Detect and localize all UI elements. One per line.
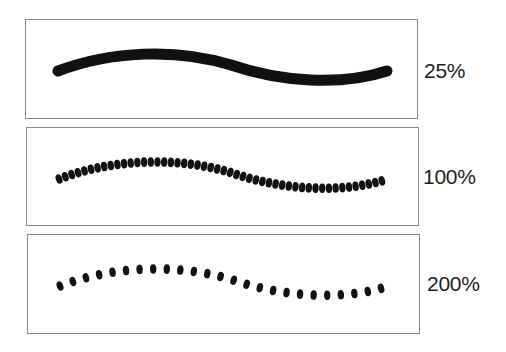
brush-dab [332,183,339,193]
brush-stroke-100-percent [27,128,420,227]
panel-25-percent [25,19,418,119]
brush-dab [278,180,286,190]
brush-dab [114,159,122,169]
brush-dab [181,158,188,168]
brush-dab [352,181,360,191]
brush-dab [265,178,273,189]
brush-dab [345,182,352,192]
brush-dab [292,182,299,192]
brush-dab [100,161,108,172]
brush-dab [203,268,211,279]
brush-dab [324,290,331,300]
brush-dab [377,175,386,186]
brush-dab [242,279,251,290]
brush-dab [109,267,117,277]
brush-stroke-25-percent [26,20,419,120]
brush-dab [337,290,344,300]
brush-dab [216,271,225,282]
brush-dab [82,272,91,283]
brush-dab [190,266,198,276]
brush-dab [213,164,221,175]
panel-200-percent [27,234,420,334]
brush-dab [122,265,129,275]
brush-dab [150,264,157,274]
brush-dab [252,175,260,186]
brush-dab [285,181,293,191]
brush-stroke-200-percent [28,235,421,335]
brush-dab [229,275,238,286]
brush-dab [120,159,127,169]
label-200-percent: 200% [427,273,480,294]
brush-dab [258,176,266,187]
brush-dab [312,183,319,193]
brush-dab [364,286,372,297]
brush-dab [299,182,306,192]
brush-dab [161,157,168,167]
brush-dab [339,183,346,193]
brush-dab [177,265,184,275]
brush-dab [207,162,215,173]
brush-dab [141,157,148,167]
brush-dab [134,158,141,168]
brush-dab [326,183,333,193]
brush-dab [163,264,170,274]
brush-dab [136,264,143,274]
brush-dab [95,269,103,280]
brush-dab [107,160,115,170]
brush-dab [167,157,174,167]
brush-dab [310,290,317,300]
panel-100-percent [26,127,419,226]
brush-dab [93,163,101,174]
brush-dab [68,276,77,287]
brush-dab [55,280,64,291]
label-100-percent: 100% [423,166,476,187]
brush-dab [245,173,254,184]
brush-dab [154,157,160,167]
brush-dab [269,285,277,296]
brush-dab [127,158,134,168]
brush-dab [256,282,264,293]
brush-dab [305,183,312,193]
brush-dab [80,165,89,176]
brush-dab [351,288,359,298]
brush-dab [194,160,202,170]
brush-dab [87,164,95,175]
brush-dab [200,161,208,172]
brush-dab [358,180,366,191]
brush-dab [371,177,379,188]
brush-dab [283,287,291,297]
brush-dab [187,159,195,169]
brush-dab [148,157,155,167]
brush-dab [272,179,280,190]
brush-dab [377,283,386,294]
brush-dab [296,289,303,299]
brush-dab [174,158,181,168]
brush-dab [319,183,325,193]
label-25-percent: 25% [424,60,465,81]
brush-dab [74,167,83,178]
brush-dab [365,179,373,190]
brush-dab [219,165,228,176]
